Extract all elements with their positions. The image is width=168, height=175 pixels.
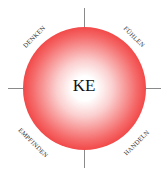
center-label: KE — [0, 76, 168, 96]
axis-line-top — [84, 8, 85, 28]
axis-line-bottom — [84, 149, 85, 168]
